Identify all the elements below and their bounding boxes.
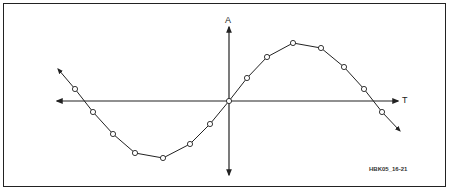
figure-id: HBK05_16-21	[369, 166, 407, 172]
sample-point	[361, 86, 366, 91]
x-axis-label: T	[402, 95, 408, 105]
sample-point	[132, 150, 137, 155]
sample-point	[187, 141, 192, 146]
sample-point	[244, 75, 249, 80]
curve-end-arrow	[382, 112, 400, 131]
sample-point	[341, 64, 346, 69]
sample-point	[226, 98, 231, 103]
sample-point	[72, 86, 77, 91]
curve-start-arrow	[58, 69, 75, 89]
sample-point	[264, 54, 269, 59]
sample-point	[90, 109, 95, 114]
sample-point	[318, 45, 323, 50]
sample-point	[160, 155, 165, 160]
sample-point	[290, 40, 295, 45]
y-axis-label: A	[225, 15, 231, 25]
sample-point	[379, 109, 384, 114]
sample-point	[110, 131, 115, 136]
sample-point	[207, 121, 212, 126]
